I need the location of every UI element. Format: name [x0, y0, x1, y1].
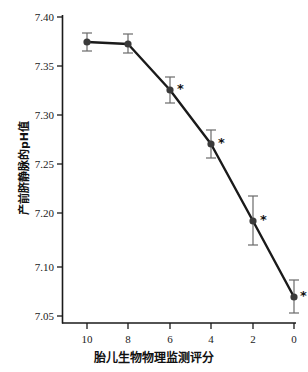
x-axis-ticks: [87, 323, 294, 329]
y-axis-ticks: [57, 17, 63, 316]
significance-star-0: *: [300, 289, 307, 302]
significance-star-4: *: [218, 136, 225, 149]
x-tick-label-6: 6: [155, 333, 185, 345]
x-tick-label-10: 10: [72, 333, 102, 345]
data-point: [207, 140, 214, 147]
error-bars: [82, 33, 299, 313]
series-line: [87, 42, 294, 297]
y-tick-label-705: 7.05: [10, 310, 54, 322]
x-tick-label-8: 8: [113, 333, 143, 345]
y-tick-label-740: 7.40: [10, 11, 54, 23]
significance-star-6: *: [177, 82, 184, 95]
x-axis-title: 胎儿生物物理监测评分: [0, 348, 308, 365]
data-point: [166, 86, 173, 93]
data-point: [83, 38, 90, 45]
data-point: [249, 217, 256, 224]
y-tick-label-710: 7.10: [10, 261, 54, 273]
y-axis-title: 产前脐静脉的pH值: [15, 93, 31, 243]
data-point-markers: [83, 38, 297, 300]
y-tick-label-735: 7.35: [10, 60, 54, 72]
x-tick-label-4: 4: [196, 333, 226, 345]
data-point: [290, 293, 297, 300]
data-point: [124, 40, 131, 47]
chart-figure: 7.40 7.35 7.30 7.25 7.20 7.10 7.05 10 8 …: [0, 0, 308, 372]
x-tick-label-0: 0: [279, 333, 308, 345]
x-tick-label-2: 2: [238, 333, 268, 345]
significance-star-2: *: [260, 213, 267, 226]
